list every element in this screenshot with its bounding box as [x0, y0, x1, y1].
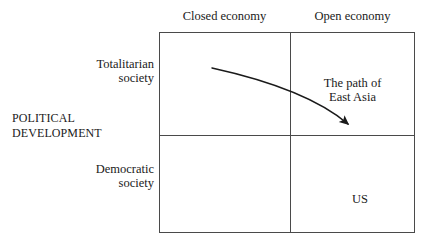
matrix-vertical-divider	[290, 32, 291, 233]
annotation-path-of-east-asia: The path of East Asia	[300, 76, 405, 104]
political-development-matrix-diagram: Closed economy Open economy Totalitarian…	[0, 0, 434, 251]
row-label-democratic-line2: society	[34, 176, 154, 190]
column-header-closed-economy: Closed economy	[159, 9, 290, 24]
annotation-path-line1: The path of	[300, 76, 405, 90]
row-label-totalitarian-society: Totalitarian society	[34, 57, 154, 85]
matrix-horizontal-divider	[159, 135, 415, 136]
row-label-democratic-society: Democratic society	[34, 162, 154, 190]
annotation-path-line2: East Asia	[300, 90, 405, 104]
column-header-open-economy: Open economy	[290, 9, 415, 24]
axis-label-political-development: POLITICAL DEVELOPMENT	[12, 111, 102, 140]
row-label-totalitarian-line2: society	[34, 71, 154, 85]
row-label-democratic-line1: Democratic	[34, 162, 154, 176]
axis-label-line2: DEVELOPMENT	[12, 126, 102, 141]
annotation-us: US	[340, 192, 380, 206]
axis-label-line1: POLITICAL	[12, 111, 102, 126]
row-label-totalitarian-line1: Totalitarian	[34, 57, 154, 71]
